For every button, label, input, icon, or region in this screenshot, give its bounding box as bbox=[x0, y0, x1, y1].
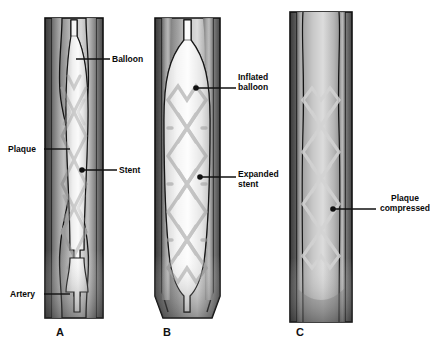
leader-dot-inflated-balloon bbox=[193, 85, 199, 91]
label-expanded-stent-line1: Expanded bbox=[238, 169, 286, 179]
leader-dot-stent bbox=[79, 167, 85, 173]
label-expanded-stent: Expanded stent bbox=[238, 169, 286, 189]
label-expanded-stent-line2: stent bbox=[238, 179, 286, 189]
leader-dot-expanded-stent bbox=[197, 174, 203, 180]
label-artery: Artery bbox=[10, 289, 35, 299]
panel-letter-a: A bbox=[56, 326, 64, 338]
label-balloon: Balloon bbox=[112, 54, 143, 64]
label-inflated-balloon-line1: Inflated bbox=[238, 72, 268, 82]
label-plaque-compressed-line2: compressed bbox=[378, 203, 432, 213]
diagram-artwork bbox=[0, 0, 435, 348]
panel-letter-b: B bbox=[163, 326, 171, 338]
label-stent: Stent bbox=[119, 165, 140, 175]
label-plaque: Plaque bbox=[8, 144, 36, 154]
panel-letter-c: C bbox=[296, 326, 304, 338]
label-inflated-balloon: Inflated balloon bbox=[238, 72, 268, 92]
label-inflated-balloon-line2: balloon bbox=[238, 82, 268, 92]
label-plaque-compressed-line1: Plaque bbox=[378, 193, 432, 203]
label-plaque-compressed: Plaque compressed bbox=[378, 193, 432, 213]
leader-dot-plaque-compressed bbox=[330, 206, 336, 212]
stent-placement-figure: Balloon Plaque Stent Artery Inflated bal… bbox=[0, 0, 435, 348]
